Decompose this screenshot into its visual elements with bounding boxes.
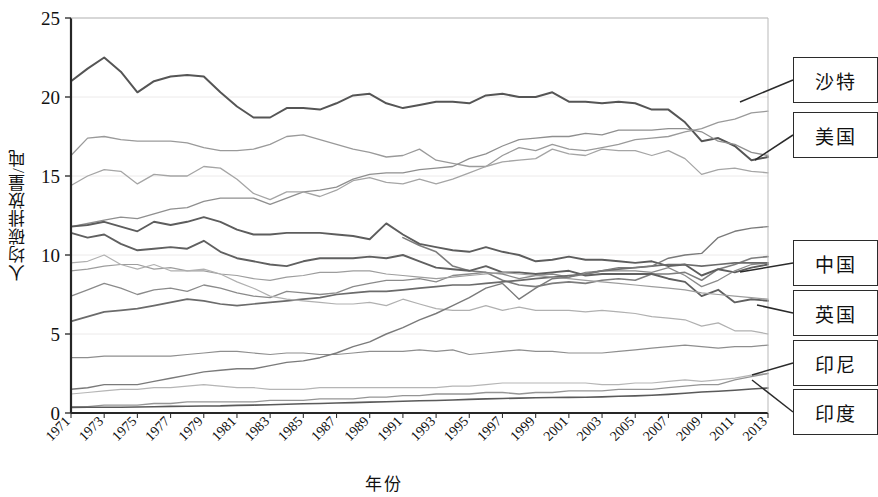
series-line bbox=[71, 255, 768, 334]
y-tick-label: 10 bbox=[41, 245, 60, 266]
callout-label-中国[interactable]: 中国 bbox=[793, 240, 878, 286]
series-line bbox=[71, 345, 768, 358]
x-tick-label: 1971 bbox=[43, 414, 73, 444]
callout-leader-line bbox=[752, 380, 793, 412]
callout-label-印尼[interactable]: 印尼 bbox=[793, 340, 878, 386]
series-line bbox=[71, 111, 768, 166]
x-tick-label: 1985 bbox=[275, 414, 305, 444]
x-tick-label: 1997 bbox=[474, 414, 504, 444]
callout-leaders bbox=[740, 80, 793, 412]
callout-leader-line bbox=[752, 363, 793, 375]
y-tick-label: 15 bbox=[41, 166, 60, 187]
data-series-layer bbox=[71, 58, 768, 408]
callout-leader-line bbox=[740, 80, 793, 102]
x-tick-label: 1977 bbox=[142, 414, 172, 444]
x-tick-label: 1991 bbox=[375, 414, 405, 444]
x-tick-label: 1973 bbox=[76, 414, 106, 444]
series-line bbox=[71, 129, 768, 227]
callout-label-印度[interactable]: 印度 bbox=[793, 389, 878, 435]
x-tick-label: 1983 bbox=[242, 414, 272, 444]
x-tick-label: 1995 bbox=[441, 414, 471, 444]
series-line bbox=[71, 227, 768, 390]
callout-leader-line bbox=[757, 305, 793, 313]
series-line bbox=[71, 263, 768, 322]
x-tick-label: 1999 bbox=[507, 414, 537, 444]
y-tick-label: 20 bbox=[41, 87, 60, 108]
series-line bbox=[71, 149, 768, 200]
y-axis-ticks: 0510152025 bbox=[41, 8, 71, 424]
x-tick-label: 2009 bbox=[673, 414, 703, 444]
callout-label-沙特[interactable]: 沙特 bbox=[793, 57, 878, 103]
series-line bbox=[71, 388, 768, 408]
callout-label-美国[interactable]: 美国 bbox=[793, 112, 878, 158]
x-tick-label: 1987 bbox=[308, 414, 338, 444]
y-tick-label: 5 bbox=[51, 324, 61, 345]
y-tick-label: 25 bbox=[41, 8, 60, 29]
plot-frame bbox=[71, 18, 768, 413]
x-axis-title: 年份 bbox=[0, 470, 768, 495]
x-tick-label: 2003 bbox=[574, 414, 604, 444]
callout-label-英国[interactable]: 英国 bbox=[793, 290, 878, 336]
chart-figure: 人均碳排放量/吨 0510152025 19711973197519771979… bbox=[0, 0, 878, 497]
x-tick-label: 2005 bbox=[607, 414, 637, 444]
x-axis-ticks: 1971197319751977197919811983198519871989… bbox=[43, 413, 770, 444]
x-tick-label: 2001 bbox=[541, 414, 571, 444]
x-tick-label: 2013 bbox=[740, 414, 770, 444]
series-line bbox=[71, 374, 768, 407]
x-tick-label: 1993 bbox=[408, 414, 438, 444]
x-tick-label: 2007 bbox=[640, 414, 670, 444]
x-tick-label: 1981 bbox=[209, 414, 239, 444]
line-chart-plot: 0510152025 19711973197519771979198119831… bbox=[0, 0, 878, 497]
x-tick-label: 1975 bbox=[109, 414, 139, 444]
callout-leader-line bbox=[755, 135, 793, 160]
x-tick-label: 1989 bbox=[341, 414, 371, 444]
x-tick-label: 1979 bbox=[175, 414, 205, 444]
series-line bbox=[403, 238, 768, 287]
series-line bbox=[71, 58, 768, 161]
x-tick-label: 2011 bbox=[707, 414, 737, 444]
